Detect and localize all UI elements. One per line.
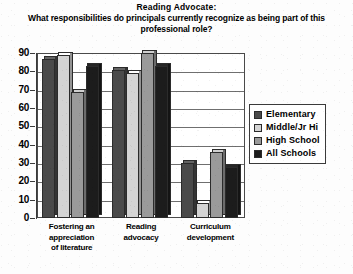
legend-label: Middle/Jr Hi bbox=[266, 123, 318, 132]
bar-face bbox=[42, 59, 55, 219]
bar-side-face bbox=[168, 63, 171, 215]
chart-figure: Reading Advocate: What responsibilities … bbox=[0, 0, 353, 274]
legend-label: All Schools bbox=[266, 149, 316, 158]
bar-face bbox=[210, 152, 223, 218]
y-axis-tick-label: 50 bbox=[18, 121, 29, 131]
bar-side-face bbox=[99, 63, 102, 215]
bar bbox=[71, 92, 84, 219]
legend-item-high-school: High School bbox=[254, 134, 320, 147]
x-axis-labels: Fostering anappreciationof literatureRea… bbox=[37, 222, 245, 270]
bar bbox=[196, 203, 209, 218]
bar-face bbox=[196, 203, 209, 218]
bar bbox=[126, 73, 139, 218]
x-axis-label-line: appreciation bbox=[37, 233, 106, 244]
y-axis-tick-mark bbox=[30, 181, 35, 182]
bar-face bbox=[126, 73, 139, 218]
bar-face bbox=[57, 55, 70, 218]
bar bbox=[57, 55, 70, 218]
legend-item-middle-jr-hi: Middle/Jr Hi bbox=[254, 121, 320, 134]
bar-face bbox=[71, 92, 84, 219]
chart-title-block: Reading Advocate: What responsibilities … bbox=[0, 2, 353, 35]
legend-label: High School bbox=[266, 136, 320, 145]
chart-title: Reading Advocate: bbox=[0, 2, 353, 13]
bar bbox=[112, 70, 125, 219]
bar-face bbox=[112, 70, 125, 219]
legend-item-all-schools: All Schools bbox=[254, 147, 320, 160]
y-axis-tick-mark bbox=[30, 90, 35, 91]
x-axis-label-line: development bbox=[176, 233, 245, 244]
bar-face bbox=[141, 53, 154, 218]
y-axis-tick-mark bbox=[30, 200, 35, 201]
bar-face bbox=[225, 167, 238, 218]
x-axis-label-line: Curriculum bbox=[176, 222, 245, 233]
y-axis-tick-label: 0 bbox=[24, 213, 29, 223]
x-axis-label-line: advocacy bbox=[106, 233, 175, 244]
y-axis-tick-mark bbox=[30, 163, 35, 164]
y-axis-tick-mark bbox=[30, 71, 35, 72]
y-axis-tick-label: 20 bbox=[18, 176, 29, 186]
bars-layer bbox=[37, 53, 245, 218]
bar-side-face bbox=[238, 164, 241, 215]
x-axis-label-line: Reading bbox=[106, 222, 175, 233]
legend-item-elementary: Elementary bbox=[254, 108, 320, 121]
y-axis-tick-label: 80 bbox=[18, 66, 29, 76]
y-axis-tick-mark bbox=[30, 53, 35, 54]
chart-legend: ElementaryMiddle/Jr HiHigh SchoolAll Sch… bbox=[249, 104, 326, 164]
legend-label: Elementary bbox=[266, 110, 316, 119]
legend-swatch-icon bbox=[254, 111, 262, 119]
bar-face bbox=[86, 66, 99, 218]
bar-face bbox=[181, 163, 194, 218]
y-axis-tick-mark bbox=[30, 108, 35, 109]
y-axis-tick-label: 10 bbox=[18, 195, 29, 205]
bar bbox=[155, 66, 168, 218]
legend-swatch-icon bbox=[254, 150, 262, 158]
bar bbox=[225, 167, 238, 218]
y-axis-tick-label: 70 bbox=[18, 85, 29, 95]
y-axis-tick-label: 40 bbox=[18, 140, 29, 150]
y-axis-tick-label: 30 bbox=[18, 158, 29, 168]
y-axis-tick-mark bbox=[30, 126, 35, 127]
y-axis-tick-label: 90 bbox=[18, 48, 29, 58]
bar bbox=[141, 53, 154, 218]
y-axis: 9080706050403020100 bbox=[0, 48, 37, 224]
y-axis-tick-mark bbox=[30, 145, 35, 146]
x-axis-category-label: Curriculumdevelopment bbox=[176, 222, 245, 243]
x-axis-category-label: Readingadvocacy bbox=[106, 222, 175, 243]
chart-subtitle: What responsibilities do principals curr… bbox=[0, 13, 353, 35]
x-axis-label-line: Fostering an bbox=[37, 222, 106, 233]
x-axis-label-line: of literature bbox=[37, 243, 106, 254]
x-axis-category-label: Fostering anappreciationof literature bbox=[37, 222, 106, 254]
bar bbox=[86, 66, 99, 218]
bar bbox=[42, 59, 55, 219]
y-axis-tick-label: 60 bbox=[18, 103, 29, 113]
bar bbox=[181, 163, 194, 218]
legend-swatch-icon bbox=[254, 124, 262, 132]
y-axis-tick-mark bbox=[30, 218, 35, 219]
bar bbox=[210, 152, 223, 218]
legend-swatch-icon bbox=[254, 137, 262, 145]
bar-face bbox=[155, 66, 168, 218]
